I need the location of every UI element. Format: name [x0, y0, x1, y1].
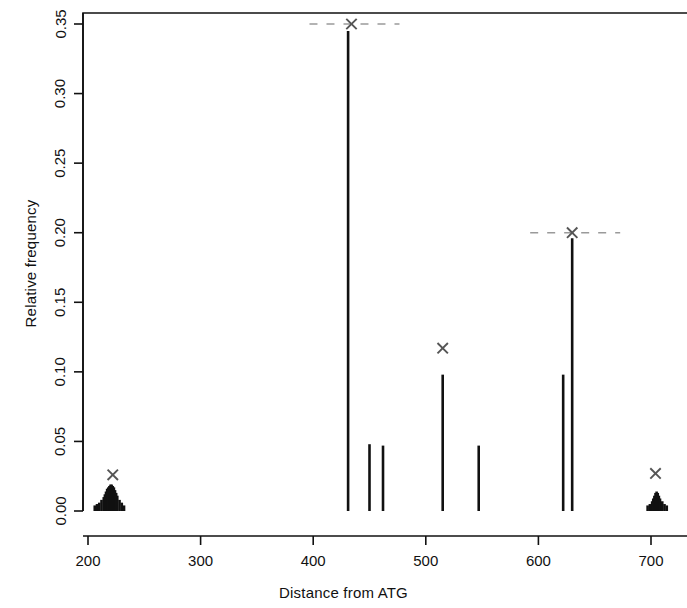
x-tick-label: 500	[413, 552, 438, 569]
marker-left-cluster	[108, 470, 118, 480]
x-tick-label: 700	[638, 552, 663, 569]
x-tick-label: 300	[188, 552, 213, 569]
spike-series	[95, 31, 667, 511]
y-tick-label: 0.35	[52, 9, 69, 38]
marker-peak-431	[309, 19, 399, 29]
marker-right-cluster	[650, 468, 660, 478]
marker-mid-515	[437, 343, 447, 353]
y-tick-label: 0.20	[52, 218, 69, 247]
x-axis-title: Distance from ATG	[0, 584, 687, 601]
x-tick-label: 600	[526, 552, 551, 569]
relative-frequency-spike-plot: 2003004005006007000.000.050.100.150.200.…	[0, 0, 687, 608]
x-tick-label: 200	[75, 552, 100, 569]
y-axis-title: Relative frequency	[22, 154, 39, 374]
y-tick-label: 0.25	[52, 149, 69, 178]
y-tick-label: 0.00	[52, 496, 69, 525]
marker-peak-630	[530, 228, 620, 238]
y-tick-label: 0.15	[52, 288, 69, 317]
y-tick-label: 0.10	[52, 357, 69, 386]
y-tick-label: 0.05	[52, 427, 69, 456]
x-tick-label: 400	[301, 552, 326, 569]
plot-box	[83, 13, 687, 511]
marker-series	[108, 19, 661, 480]
x-axis-ticks: 200300400500600700	[75, 536, 663, 569]
chart-figure: 2003004005006007000.000.050.100.150.200.…	[0, 0, 687, 608]
y-tick-label: 0.30	[52, 79, 69, 108]
y-axis-ticks: 0.000.050.100.150.200.250.300.35	[52, 9, 84, 525]
